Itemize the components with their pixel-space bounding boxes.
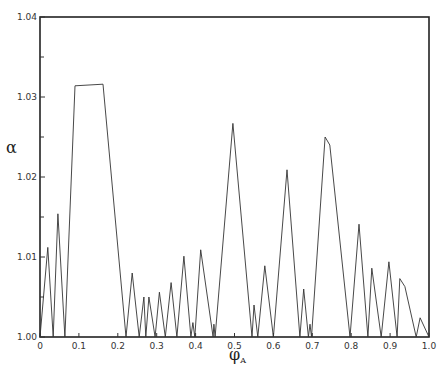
data-line [40,84,429,337]
y-axis-tick-labels: 1.001.011.021.031.04 [17,12,37,342]
x-tick-label: 0.8 [344,341,359,351]
y-tick-label: 1.01 [17,252,37,262]
x-tick-label: 0.4 [188,341,203,351]
x-axis-label: φA [229,345,246,365]
x-tick-label: 0.7 [305,341,319,351]
y-tick-label: 1.03 [17,92,37,102]
x-tick-label: 0 [37,341,43,351]
x-tick-label: 0.3 [150,341,164,351]
y-axis-label: α [6,138,17,157]
y-tick-label: 1.04 [17,12,37,22]
y-tick-label: 1.00 [17,332,37,342]
line-chart: 1.001.011.021.031.04 00.10.20.30.40.50.6… [0,0,442,369]
x-tick-label: 0.6 [266,341,281,351]
x-tick-label: 1.0 [422,341,437,351]
x-tick-label: 0.1 [72,341,86,351]
y-tick-label: 1.02 [17,172,37,182]
x-tick-label: 0.2 [111,341,125,351]
x-tick-label: 0.9 [383,341,398,351]
